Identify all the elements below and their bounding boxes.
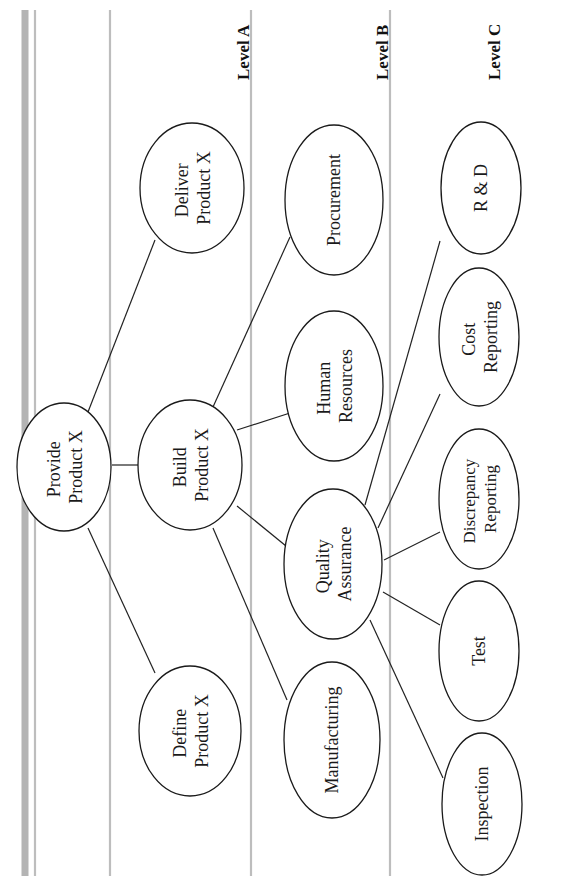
node-discrepancy-reporting: Discrepancy Reporting [439, 429, 519, 569]
node-label-line: Product X [194, 151, 214, 225]
node-provide-product-x: Provide Product X [17, 403, 111, 531]
edge-qa-discrepancy [384, 532, 440, 560]
node-label-line: Manufacturing [322, 687, 342, 794]
edge-qa-test [383, 592, 440, 625]
node-label-line: Provide [44, 441, 64, 497]
node-label-line: Product X [192, 428, 212, 502]
node-label-line: Procurement [324, 154, 344, 246]
node-define-product-x: Define Product X [139, 666, 241, 796]
edge-root-define [88, 528, 155, 673]
node-build-product-x: Build Product X [138, 400, 242, 530]
svg-text:Procurement: Procurement [324, 154, 344, 246]
node-label-line: Reporting [481, 301, 501, 373]
node-label-line: Product X [66, 430, 86, 504]
level-labels: Level A Level B Level C [234, 24, 504, 80]
svg-text:R & D: R & D [471, 164, 491, 212]
svg-text:Inspection: Inspection [472, 767, 492, 842]
node-cost-reporting: Cost Reporting [439, 268, 519, 406]
node-label-line: Resources [336, 349, 356, 423]
edge-qa-inspection [370, 620, 443, 778]
node-label-line: Reporting [481, 465, 500, 533]
node-label-line: Product X [192, 694, 212, 768]
node-manufacturing: Manufacturing [284, 662, 380, 818]
level-c-label: Level C [485, 24, 504, 80]
node-label-line: Build [170, 447, 190, 487]
edge-build-hr [237, 413, 290, 430]
edge-root-deliver [88, 240, 155, 412]
node-r-and-d: R & D [441, 122, 521, 254]
node-deliver-product-x: Deliver Product X [140, 123, 244, 253]
node-label-line: Assurance [335, 527, 355, 602]
edge-build-qa [237, 506, 286, 546]
svg-text:Manufacturing: Manufacturing [322, 687, 342, 794]
level-b-label: Level B [373, 25, 392, 80]
node-quality-assurance: Quality Assurance [284, 489, 382, 639]
node-human-resources: Human Resources [285, 311, 383, 461]
node-label-line: Quality [313, 539, 333, 593]
edge-qa-cost [378, 394, 440, 528]
wbs-diagram: Level A Level B Level C Provide Product … [0, 0, 564, 891]
node-label-line: Discrepancy [460, 458, 479, 543]
node-label-line: Define [170, 709, 190, 758]
node-procurement: Procurement [285, 125, 383, 275]
node-label-line: Deliver [172, 163, 192, 217]
node-label-line: Test [469, 636, 489, 666]
node-label-line: Cost [459, 323, 479, 356]
node-test: Test [439, 581, 519, 721]
level-a-label: Level A [234, 24, 253, 80]
node-label-line: R & D [471, 164, 491, 212]
node-label-line: Inspection [472, 767, 492, 842]
node-inspection: Inspection [442, 733, 522, 875]
node-label-line: Human [314, 362, 334, 415]
svg-text:Test: Test [469, 636, 489, 666]
